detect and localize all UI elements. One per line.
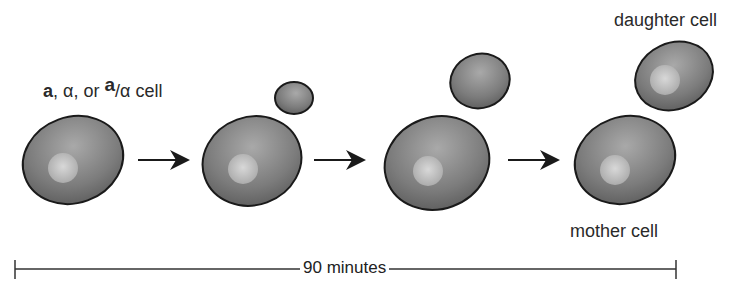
- budding-diagram: [0, 0, 752, 297]
- mother-cell: [562, 102, 687, 218]
- label-a-superscript: a: [104, 74, 115, 95]
- nucleus-icon: [650, 65, 680, 95]
- small-bud: [275, 82, 313, 114]
- daughter-cell-label: daughter cell: [614, 10, 717, 31]
- label-a: a: [43, 81, 53, 101]
- daughter-cell: [624, 29, 724, 123]
- mother-cell-label: mother cell: [570, 221, 658, 242]
- stage-2-cell: [190, 82, 314, 219]
- timescale-label: 90 minutes: [300, 258, 389, 278]
- label-cell: cell: [130, 81, 162, 101]
- cell-type-label: a, α, or a/α cell: [43, 80, 162, 102]
- large-bud: [443, 45, 518, 116]
- label-alpha-or: , α, or: [53, 81, 104, 101]
- nucleus-icon: [413, 156, 443, 186]
- nucleus-icon: [48, 153, 78, 183]
- stage-1-cell: [10, 102, 135, 218]
- label-alpha-diploid: /α: [115, 81, 130, 101]
- stage-3-cell: [371, 45, 517, 224]
- nucleus-icon: [600, 155, 630, 185]
- nucleus-icon: [228, 154, 258, 184]
